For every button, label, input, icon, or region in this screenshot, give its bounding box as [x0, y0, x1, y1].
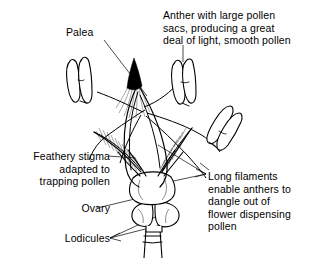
- anther-left: [67, 57, 92, 103]
- grass-flower-diagram: Palea Anther with large pollen sacs, pro…: [0, 0, 317, 259]
- label-ovary: Ovary: [54, 202, 110, 215]
- anther-top: [172, 59, 196, 106]
- label-feathery-stigma: Feathery stigma adapted to trapping poll…: [4, 150, 110, 188]
- label-anther: Anther with large pollen sacs, producing…: [163, 9, 291, 47]
- lodicules: [132, 202, 179, 232]
- leader-lodicules-arrow: [110, 233, 121, 241]
- label-long-filaments: Long filaments enable anthers to dangle …: [208, 170, 291, 233]
- label-lodicules: Lodicules: [38, 232, 110, 245]
- leader-filaments-c: [200, 163, 209, 170]
- anther-right: [207, 106, 242, 150]
- ovary: [129, 172, 175, 205]
- pedicel: [143, 230, 162, 258]
- label-palea: Palea: [66, 26, 93, 39]
